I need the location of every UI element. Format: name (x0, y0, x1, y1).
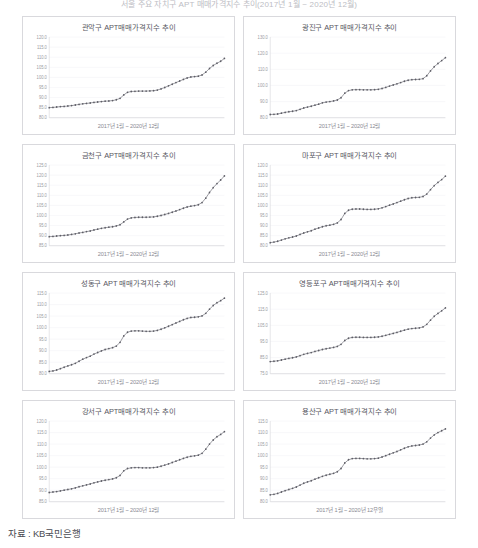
line-chart-svg: 120.0115.0110.0105.0100.095.090.085.080.… (246, 162, 451, 260)
svg-text:90.0: 90.0 (39, 95, 48, 100)
line-chart-svg: 120.0115.0110.0105.0100.095.090.085.0 (25, 418, 230, 516)
svg-text:110.0: 110.0 (258, 430, 269, 435)
svg-text:95.0: 95.0 (260, 465, 269, 470)
svg-text:115.0: 115.0 (258, 307, 269, 312)
svg-text:85.0: 85.0 (260, 355, 269, 360)
source-note: 자료 : KB국민은행 (8, 526, 80, 540)
svg-text:90.0: 90.0 (39, 233, 48, 238)
chart-panel-mapo: 마포구 APT 매매가격지수 추이 120.0115.0110.0105.010… (243, 144, 456, 263)
chart-plot-area: 115.0110.0105.0100.095.090.085.080.0 201… (23, 290, 234, 390)
svg-text:95.0: 95.0 (39, 337, 48, 342)
top-caption: 서울 주요 자치구 APT 매매가격지수 추이(2017년 1월 ~ 2020년… (6, 0, 472, 12)
chart-panel-yongsan: 용산구 APT 매매가격지수 추이 115.0110.0105.0100.095… (243, 400, 456, 519)
chart-title: 용산구 APT 매매가격지수 추이 (244, 401, 455, 418)
svg-text:110.0: 110.0 (258, 67, 269, 72)
svg-text:105.0: 105.0 (37, 453, 48, 458)
chart-plot-area: 120.0115.0110.0105.0100.095.090.085.080.… (244, 162, 455, 262)
line-chart-svg: 120.0115.0110.0105.0100.095.090.085.080.… (25, 34, 230, 132)
svg-text:115.0: 115.0 (37, 430, 48, 435)
line-chart-svg: 115.0110.0105.0100.095.090.085.080.0 (25, 290, 230, 388)
svg-text:100.0: 100.0 (258, 83, 269, 88)
svg-text:115.0: 115.0 (37, 183, 48, 188)
svg-text:120.0: 120.0 (258, 51, 269, 56)
svg-text:80.0: 80.0 (39, 371, 48, 376)
svg-text:90.0: 90.0 (260, 223, 269, 228)
svg-text:110.0: 110.0 (37, 302, 48, 307)
svg-text:120.0: 120.0 (37, 35, 48, 40)
svg-text:85.0: 85.0 (39, 360, 48, 365)
svg-text:105.0: 105.0 (37, 203, 48, 208)
charts-grid: 관악구 APT매매가격지수 추이 120.0115.0110.0105.0100… (6, 12, 472, 527)
chart-plot-area: 125.0115.0105.095.085.075.0 2017년 1월 ~ 2… (244, 290, 455, 390)
svg-text:130.0: 130.0 (258, 35, 269, 40)
line-chart-svg: 115.0110.0105.0100.095.090.085.080.0 (246, 418, 451, 516)
chart-title: 영등포구 APT매매가격지수 추이 (244, 273, 455, 290)
svg-text:110.0: 110.0 (37, 55, 48, 60)
svg-text:105.0: 105.0 (258, 442, 269, 447)
svg-text:105.0: 105.0 (37, 314, 48, 319)
svg-text:75.0: 75.0 (260, 371, 269, 376)
svg-text:100.0: 100.0 (258, 453, 269, 458)
svg-text:95.0: 95.0 (39, 223, 48, 228)
svg-text:115.0: 115.0 (37, 291, 48, 296)
chart-title: 마포구 APT 매매가격지수 추이 (244, 145, 455, 162)
svg-text:95.0: 95.0 (39, 85, 48, 90)
svg-text:100.0: 100.0 (37, 213, 48, 218)
svg-text:85.0: 85.0 (39, 105, 48, 110)
svg-text:100.0: 100.0 (37, 465, 48, 470)
svg-text:80.0: 80.0 (260, 243, 269, 248)
chart-title: 금천구 APT매매가격지수 추이 (23, 145, 234, 162)
svg-text:100.0: 100.0 (258, 203, 269, 208)
svg-text:90.0: 90.0 (260, 99, 269, 104)
svg-text:110.0: 110.0 (37, 442, 48, 447)
svg-text:105.0: 105.0 (258, 323, 269, 328)
chart-panel-geumcheon: 금천구 APT매매가격지수 추이 125.0120.0115.0110.0105… (22, 144, 235, 263)
chart-title: 성동구 APT 매매가격지수 추이 (23, 273, 234, 290)
chart-plot-area: 125.0120.0115.0110.0105.0100.095.090.085… (23, 162, 234, 262)
chart-plot-area: 120.0115.0110.0105.0100.095.090.085.080.… (23, 34, 234, 134)
line-chart-svg: 130.0120.0110.0100.090.080.0 (246, 34, 451, 132)
chart-title: 광진구 APT 매매가격지수 추이 (244, 17, 455, 34)
svg-text:110.0: 110.0 (37, 193, 48, 198)
chart-panel-yeongdeungpo: 영등포구 APT매매가격지수 추이 125.0115.0105.095.085.… (243, 272, 456, 391)
chart-panel-gwanak: 관악구 APT매매가격지수 추이 120.0115.0110.0105.0100… (22, 16, 235, 135)
svg-text:115.0: 115.0 (258, 419, 269, 424)
svg-text:90.0: 90.0 (39, 348, 48, 353)
svg-text:125.0: 125.0 (258, 291, 269, 296)
svg-text:125.0: 125.0 (37, 163, 48, 168)
chart-plot-area: 115.0110.0105.0100.095.090.085.080.0 201… (244, 418, 455, 518)
chart-panel-seongdong: 성동구 APT 매매가격지수 추이 115.0110.0105.0100.095… (22, 272, 235, 391)
chart-panel-gwangjin: 광진구 APT 매매가격지수 추이 130.0120.0110.0100.090… (243, 16, 456, 135)
svg-text:95.0: 95.0 (260, 213, 269, 218)
chart-plot-area: 130.0120.0110.0100.090.080.0 2017년 1월 ~ … (244, 34, 455, 134)
svg-text:120.0: 120.0 (37, 173, 48, 178)
svg-text:115.0: 115.0 (37, 45, 48, 50)
svg-text:80.0: 80.0 (260, 115, 269, 120)
svg-text:85.0: 85.0 (39, 243, 48, 248)
svg-text:115.0: 115.0 (258, 173, 269, 178)
svg-text:85.0: 85.0 (260, 488, 269, 493)
svg-text:85.0: 85.0 (39, 499, 48, 504)
line-chart-svg: 125.0115.0105.095.085.075.0 (246, 290, 451, 388)
svg-text:90.0: 90.0 (39, 488, 48, 493)
chart-plot-area: 120.0115.0110.0105.0100.095.090.085.0 20… (23, 418, 234, 518)
chart-title: 강서구 APT매매가격지수 추이 (23, 401, 234, 418)
svg-text:100.0: 100.0 (37, 325, 48, 330)
svg-text:120.0: 120.0 (37, 419, 48, 424)
chart-title: 관악구 APT매매가격지수 추이 (23, 17, 234, 34)
svg-text:110.0: 110.0 (258, 183, 269, 188)
svg-text:90.0: 90.0 (260, 476, 269, 481)
svg-text:80.0: 80.0 (260, 499, 269, 504)
svg-text:95.0: 95.0 (260, 339, 269, 344)
line-chart-svg: 125.0120.0115.0110.0105.0100.095.090.085… (25, 162, 230, 260)
svg-text:95.0: 95.0 (39, 476, 48, 481)
report-page: 서울 주요 자치구 APT 매매가격지수 추이(2017년 1월 ~ 2020년… (0, 0, 478, 548)
svg-text:80.0: 80.0 (39, 115, 48, 120)
svg-text:85.0: 85.0 (260, 233, 269, 238)
svg-text:100.0: 100.0 (37, 75, 48, 80)
svg-text:105.0: 105.0 (37, 65, 48, 70)
svg-text:120.0: 120.0 (258, 163, 269, 168)
chart-panel-gangseo: 강서구 APT매매가격지수 추이 120.0115.0110.0105.0100… (22, 400, 235, 519)
svg-text:105.0: 105.0 (258, 193, 269, 198)
